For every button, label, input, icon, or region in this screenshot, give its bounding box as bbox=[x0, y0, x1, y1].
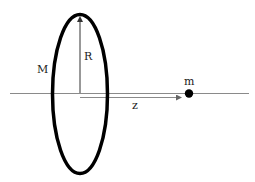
distance-label: z bbox=[132, 100, 138, 111]
point-mass-label: m bbox=[184, 76, 194, 87]
ring-gravity-diagram: M R m z bbox=[0, 0, 255, 182]
point-mass-dot bbox=[185, 89, 193, 97]
radius-label: R bbox=[84, 51, 92, 62]
ring-mass-label: M bbox=[37, 64, 48, 75]
diagram-graphic bbox=[0, 0, 255, 182]
